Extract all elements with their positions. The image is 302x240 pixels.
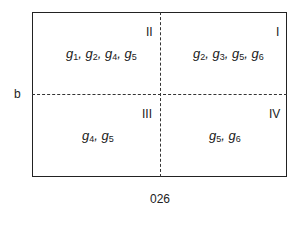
set-item: g1 bbox=[66, 46, 78, 61]
quadrant-II-sets: g1, g2, g4, g5 bbox=[66, 46, 137, 62]
quadrant-IV-sets: g5, g6 bbox=[209, 128, 241, 144]
set-item: g5 bbox=[232, 46, 244, 61]
quadrant-label-I: I bbox=[276, 25, 279, 39]
horizontal-divider bbox=[32, 94, 287, 95]
set-item: g6 bbox=[251, 46, 263, 61]
set-item: g5 bbox=[124, 46, 136, 61]
set-item: g2 bbox=[193, 46, 205, 61]
quadrant-III-sets: g4, g5 bbox=[82, 128, 114, 144]
set-item: g4 bbox=[105, 46, 117, 61]
set-item: g5 bbox=[209, 128, 221, 143]
quadrant-I-sets: g2, g3, g5, g6 bbox=[193, 46, 264, 62]
set-item: g6 bbox=[228, 128, 240, 143]
quadrant-label-IV: IV bbox=[269, 107, 280, 121]
quadrant-label-II: II bbox=[146, 25, 153, 39]
set-item: g5 bbox=[101, 128, 113, 143]
quadrant-label-III: III bbox=[142, 107, 152, 121]
set-item: g2 bbox=[85, 46, 97, 61]
set-item: g4 bbox=[82, 128, 94, 143]
set-item: g3 bbox=[212, 46, 224, 61]
x-axis-label: 026 bbox=[150, 192, 170, 206]
y-axis-label: b bbox=[14, 87, 21, 101]
